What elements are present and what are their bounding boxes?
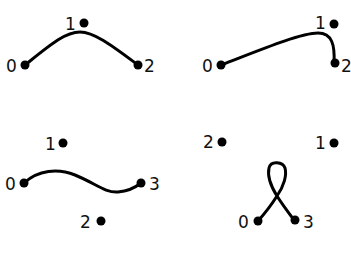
panel-bottom-left: 0 1 2 3 (5, 134, 160, 232)
curve-0-to-2 (221, 33, 334, 65)
point-0 (254, 217, 263, 226)
point-1 (330, 139, 339, 148)
curve-0-to-3 (24, 171, 141, 192)
point-1 (330, 20, 339, 29)
point-1 (80, 19, 89, 28)
point-label-1: 1 (45, 134, 56, 154)
point-0 (21, 61, 30, 70)
point-label-2: 2 (203, 132, 214, 152)
point-label-0: 0 (5, 174, 16, 194)
point-label-1: 1 (315, 13, 326, 33)
point-label-2: 2 (144, 56, 155, 76)
point-label-3: 3 (303, 212, 314, 232)
point-label-1: 1 (65, 14, 76, 34)
diagram-canvas: 0 1 2 0 1 2 0 1 2 3 0 1 2 3 (0, 0, 351, 254)
point-label-0: 0 (238, 212, 249, 232)
curve-0-to-3 (258, 163, 294, 221)
panel-bottom-right: 0 1 2 3 (203, 132, 339, 232)
point-2 (218, 138, 227, 147)
point-0 (20, 179, 29, 188)
point-0 (217, 61, 226, 70)
point-label-2: 2 (80, 212, 91, 232)
point-2 (134, 61, 143, 70)
point-1 (59, 139, 68, 148)
point-label-2: 2 (341, 56, 351, 76)
curve-0-to-2 (25, 32, 138, 65)
point-label-0: 0 (202, 56, 213, 76)
point-label-0: 0 (6, 56, 17, 76)
panel-top-left: 0 1 2 (6, 14, 155, 76)
point-2 (97, 217, 106, 226)
point-2 (331, 59, 340, 68)
point-label-3: 3 (149, 174, 160, 194)
point-3 (137, 179, 146, 188)
point-label-1: 1 (315, 133, 326, 153)
panel-top-right: 0 1 2 (202, 13, 351, 76)
point-3 (291, 216, 300, 225)
